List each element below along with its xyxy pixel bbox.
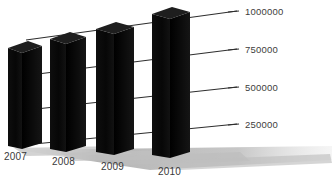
x-category-label-2010: 2010: [158, 167, 181, 177]
x-category-label-2007: 2007: [4, 152, 27, 162]
bar-chart: Three-dimensional black bar chart with f…: [0, 0, 333, 181]
x-category-label-2009: 2009: [101, 162, 124, 172]
x-category-label-2008: 2008: [52, 157, 75, 167]
x-axis-labels: 2007 2008 2009 2010: [0, 0, 333, 181]
